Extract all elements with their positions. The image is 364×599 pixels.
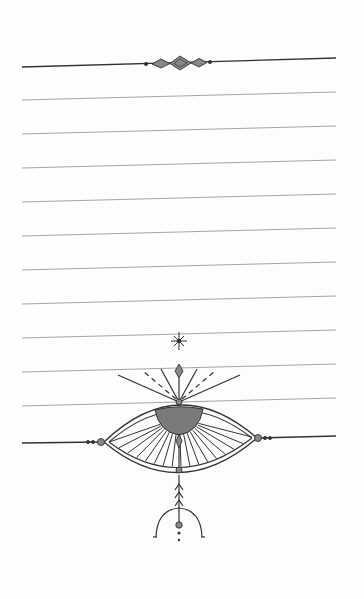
page-artwork <box>0 0 364 599</box>
ruled-lines <box>22 92 336 406</box>
ruled-line <box>22 194 336 202</box>
journal-page <box>0 0 364 599</box>
sunburst-rays <box>118 364 240 405</box>
ruled-line <box>22 262 336 270</box>
arrow-stem-ornament <box>153 475 205 541</box>
ruled-line <box>22 228 336 236</box>
ruled-line <box>22 160 336 168</box>
star-icon <box>171 332 187 350</box>
ruled-line <box>22 92 336 100</box>
header-divider-ornament <box>22 56 336 70</box>
ruled-line <box>22 126 336 134</box>
eye-motif <box>22 405 336 473</box>
ruled-line <box>22 296 336 304</box>
